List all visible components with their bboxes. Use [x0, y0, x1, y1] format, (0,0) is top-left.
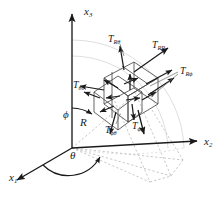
x1-axis-label: x1 — [9, 172, 17, 185]
T-theta-theta-label: Tθθ — [73, 80, 84, 91]
T-phi-theta-label: Tϕθ — [105, 125, 116, 136]
T-R-phi-label: TRϕ — [180, 66, 192, 77]
projection-lines — [72, 92, 183, 182]
T-R-theta-label: TRθ — [108, 34, 120, 45]
arrow-small-6 — [132, 104, 134, 120]
x2-axis-label: x2 — [204, 136, 212, 149]
phi-arc — [72, 108, 92, 114]
theta-angle-label: θ — [70, 150, 75, 161]
T-phi-phi-label: Tϕϕ — [132, 121, 144, 132]
arrow-T-RR — [134, 48, 168, 72]
phi-angle-label: ϕ — [63, 109, 69, 120]
x3-axis-label: x3 — [84, 6, 92, 19]
radius-label: R — [80, 117, 87, 128]
arrow-small-8 — [142, 92, 156, 100]
diagram-canvas — [0, 0, 224, 207]
stress-tensor-diagram: x1 x2 x3 ϕ θ R TRθ TRR TRϕ Tθθ Tϕθ Tϕϕ — [0, 0, 224, 207]
T-R-R-label: TRR — [152, 40, 165, 51]
